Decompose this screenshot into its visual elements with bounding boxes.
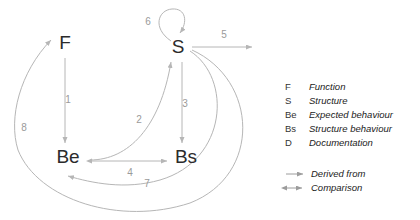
legend-key-be: Be <box>285 109 297 120</box>
node-structure-behaviour: Bs <box>175 146 197 167</box>
edge-1-function-to-expected-behaviour: 1 <box>65 58 71 143</box>
node-expected-behaviour: Be <box>56 146 79 167</box>
edge-6-number: 6 <box>145 16 151 27</box>
legend-desc-structure-behaviour: Structure behaviour <box>309 123 393 134</box>
legend-item-derived-from: Derived from <box>286 168 365 179</box>
legend-desc-structure: Structure <box>309 95 348 106</box>
legend-desc-documentation: Documentation <box>309 137 373 148</box>
edge-1-number: 1 <box>65 94 71 105</box>
legend-key-bs: Bs <box>285 123 296 134</box>
edge-8-number: 8 <box>21 122 27 133</box>
edge-8-line <box>15 40 243 211</box>
legend-desc-expected-behaviour: Expected behaviour <box>309 109 394 120</box>
edge-5-number: 5 <box>221 29 227 40</box>
legend-item-structure-behaviour: Bs Structure behaviour <box>285 123 393 134</box>
legend-key-d: D <box>285 137 292 148</box>
legend-item-documentation: D Documentation <box>285 137 373 148</box>
fbs-diagram: 1 2 3 4 5 6 7 <box>0 0 420 220</box>
edge-7-number: 7 <box>144 178 150 189</box>
legend-key-f: F <box>285 81 291 92</box>
diagram-canvas: 1 2 3 4 5 6 7 <box>0 0 420 220</box>
edge-3-structure-to-structure-behaviour: 3 <box>182 62 188 143</box>
legend-item-comparison: Comparison <box>287 182 362 193</box>
edge-3-number: 3 <box>182 98 188 109</box>
legend-item-function: F Function <box>285 81 345 92</box>
legend: F Function S Structure Be Expected behav… <box>285 81 394 193</box>
edge-2-number: 2 <box>136 114 142 125</box>
edge-2-line <box>90 62 171 160</box>
edge-2-expected-behaviour-to-structure: 2 <box>90 62 171 160</box>
edge-4-behaviour-comparison: 4 <box>92 161 167 178</box>
edge-5-structure-to-documentation: 5 <box>192 29 252 47</box>
node-structure: S <box>172 36 185 57</box>
edge-7-structure-to-expected-behaviour: 7 <box>68 51 217 189</box>
edge-8-structure-to-function: 8 <box>15 40 243 211</box>
legend-item-expected-behaviour: Be Expected behaviour <box>285 109 394 120</box>
legend-item-structure: S Structure <box>285 95 348 106</box>
legend-key-s: S <box>285 95 291 106</box>
edge-4-number: 4 <box>127 167 133 178</box>
legend-desc-comparison: Comparison <box>311 182 362 193</box>
legend-desc-function: Function <box>309 81 345 92</box>
node-function: F <box>59 32 71 53</box>
legend-desc-derived-from: Derived from <box>311 168 365 179</box>
